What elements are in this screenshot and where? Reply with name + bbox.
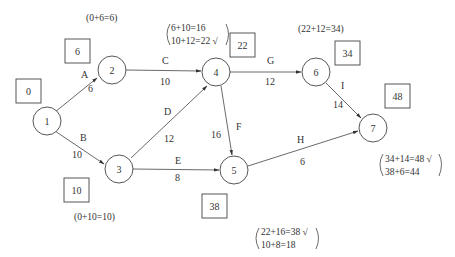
network-diagram: A 6 B 10 C 10 D 12 E 8 F 16 G 12 H 6 I 1… [0, 0, 455, 257]
calc-node-5: 22+16=38 √ 10+8=18 [256, 227, 319, 250]
time-node-7: 48 [393, 91, 403, 102]
arrow-e [133, 169, 219, 170]
calc-node-4-line-1: 6+10=16 [171, 23, 206, 33]
activity-h-name: H [297, 134, 304, 145]
node-7-label: 7 [371, 123, 376, 134]
node-3-label: 3 [117, 164, 122, 175]
arrow-f [221, 86, 232, 155]
activity-c-name: C [162, 55, 169, 66]
time-node-6: 34 [343, 48, 353, 59]
activity-e-name: E [175, 155, 181, 166]
arrow-c [126, 70, 201, 71]
time-node-2: 6 [75, 46, 80, 57]
activity-e-duration: 8 [175, 172, 180, 183]
node-5-label: 5 [232, 165, 237, 176]
calc-node-4: 6+10=16 10+12=22 √ [167, 23, 229, 46]
time-node-5: 38 [210, 201, 220, 212]
activity-i-duration: 14 [333, 99, 343, 110]
calc-node-3: (0+10=10) [74, 212, 115, 223]
time-node-1: 0 [26, 86, 31, 97]
activity-c-duration: 10 [160, 76, 170, 87]
activity-i-name: I [341, 80, 344, 91]
node-2-label: 2 [110, 65, 115, 76]
activity-f-name: F [236, 121, 242, 132]
activity-b-name: B [80, 132, 87, 143]
calc-node-7: 34+14=48 √ 38+6=44 [380, 154, 442, 177]
activity-h-duration: 6 [300, 156, 305, 167]
activity-a-duration: 6 [88, 83, 93, 94]
activity-a-name: A [81, 69, 89, 80]
calc-node-2: (0+6=6) [86, 13, 117, 24]
activity-g-duration: 12 [265, 76, 275, 87]
calc-node-5-line-1: 22+16=38 √ [261, 227, 309, 237]
calc-node-5-line-2: 10+8=18 [261, 240, 296, 250]
activity-f-duration: 16 [211, 129, 221, 140]
activity-b-duration: 10 [72, 149, 82, 160]
activity-d-duration: 12 [164, 133, 174, 144]
calc-node-4-line-2: 10+12=22 √ [171, 36, 219, 46]
node-6-label: 6 [314, 67, 319, 78]
activity-g-name: G [267, 55, 274, 66]
calc-node-7-line-2: 38+6=44 [385, 167, 420, 177]
node-4-label: 4 [214, 67, 219, 78]
calc-node-7-line-1: 34+14=48 √ [385, 154, 433, 164]
node-1-label: 1 [45, 116, 50, 127]
time-node-3: 10 [72, 185, 82, 196]
time-node-4: 22 [238, 40, 248, 51]
activity-d-name: D [164, 106, 171, 117]
arrow-d [131, 86, 207, 158]
calc-node-6: (22+12=34) [298, 24, 344, 35]
